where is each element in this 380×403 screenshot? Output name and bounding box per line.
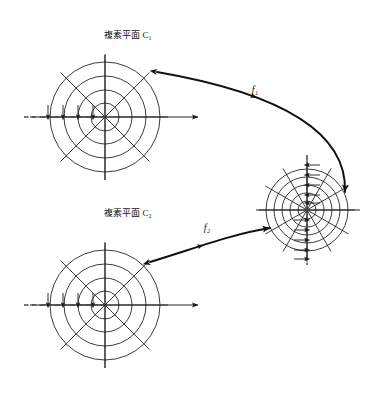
map-f2-label: f₂	[204, 222, 211, 233]
plane-c2-title: 複素平面 C₂	[104, 207, 151, 218]
plane-c1-title: 複素平面 C₁	[104, 29, 151, 40]
riemann-branch-cut-diagram: 複素平面 C₁ 複素平面 C₂ f₁ f₂	[0, 0, 380, 403]
background	[0, 0, 380, 403]
figure-canvas: 複素平面 C₁ 複素平面 C₂ f₁ f₂	[0, 0, 380, 403]
map-f1-label: f₁	[252, 84, 258, 95]
